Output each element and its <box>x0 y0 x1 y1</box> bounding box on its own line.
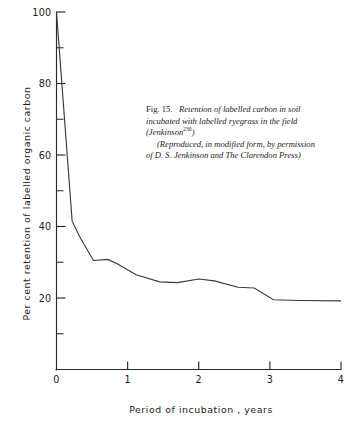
x-axis-tick-labels: 01234 <box>53 374 344 385</box>
x-tick-label: 2 <box>196 374 202 385</box>
y-tick-label: 40 <box>39 221 52 232</box>
y-tick-label: 60 <box>39 150 52 161</box>
y-axis-tick-labels: 20406080100 <box>32 7 51 304</box>
x-tick-label: 3 <box>267 374 273 385</box>
figure-container: Fig. 15. Retention of labelled carbon in… <box>0 0 352 429</box>
data-series-line <box>57 12 342 301</box>
chart-plot: 20406080100 01234 <box>0 0 352 429</box>
x-axis-ticks <box>128 362 341 370</box>
x-tick-label: 1 <box>124 374 130 385</box>
y-tick-label: 100 <box>32 7 51 18</box>
y-tick-label: 80 <box>39 78 52 89</box>
x-tick-label: 4 <box>338 374 344 385</box>
y-axis-ticks <box>57 12 66 334</box>
y-tick-label: 20 <box>39 293 52 304</box>
x-tick-label: 0 <box>53 374 59 385</box>
